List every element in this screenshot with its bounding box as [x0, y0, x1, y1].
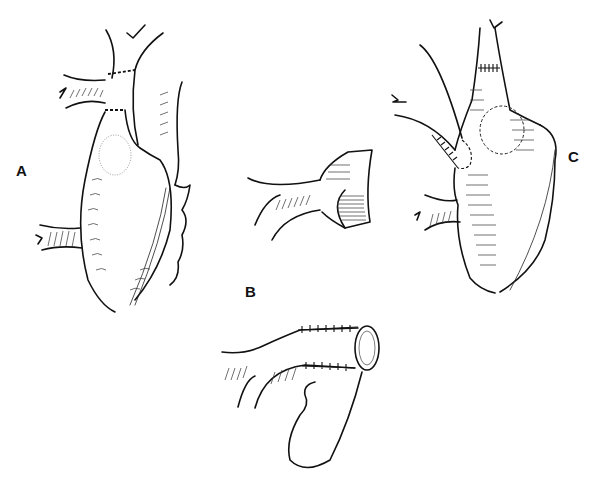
panel-a-drawing [36, 25, 190, 312]
panel-label-c: C [568, 148, 579, 165]
illustration-canvas [0, 0, 593, 489]
panel-label-b: B [245, 283, 256, 300]
panel-b-top-drawing [248, 150, 372, 240]
panel-label-a: A [16, 162, 27, 179]
panel-b-bottom-drawing [222, 325, 379, 468]
panel-c-drawing [392, 20, 556, 293]
